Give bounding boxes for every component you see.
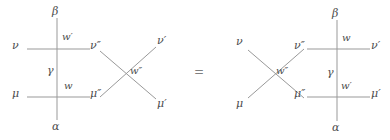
left-nu-label: ν [12,40,19,51]
right-w-prime-label: w′ [341,81,352,91]
right-mu-label: μ [236,98,243,109]
right-w-label: w [342,33,351,43]
left-gamma-label: γ [47,65,54,76]
right-nu-double-prime-label: ν″ [294,40,305,51]
right-mu-prime-label: μ′ [371,88,381,99]
left-w-label: w [64,81,73,91]
equals-sign: = [194,65,204,79]
left-cross-strand-a [100,51,156,99]
right-mu-double-prime-label: μ″ [294,88,305,99]
right-nu-label: ν [236,36,243,47]
right-beta-label: β [332,8,338,19]
left-nu-double-prime-label: ν″ [90,40,101,51]
left-alpha-label: α [52,121,59,132]
right-nu-prime-label: ν′ [371,40,380,51]
right-gamma-label: γ [327,67,334,78]
right-w-double-prime-label: w″ [276,66,288,76]
right-alpha-label: α [332,122,339,133]
left-w-double-prime-label: w″ [130,66,142,76]
left-nu-prime-label: ν′ [157,35,166,46]
left-mu-label: μ [12,88,19,99]
left-w-prime-label: w′ [62,32,73,42]
left-mu-double-prime-label: μ″ [90,88,101,99]
figure-canvas: β α γ ν μ w′ w ν″ μ″ ν′ μ′ w″ = ν μ w″ ν… [0,0,390,140]
left-cross-strand-b [100,47,156,97]
left-mu-prime-label: μ′ [157,98,167,109]
left-beta-label: β [52,6,58,17]
